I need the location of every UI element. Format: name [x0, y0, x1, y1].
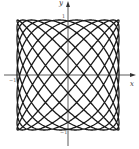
x-axis-label: x	[130, 80, 134, 88]
y-max-tick-label: 1	[62, 13, 65, 19]
y-min-tick-label: −1	[60, 129, 67, 135]
lissajous-plot	[0, 0, 139, 149]
x-min-tick-label: −1	[9, 77, 16, 83]
y-axis-label: y	[59, 0, 63, 7]
